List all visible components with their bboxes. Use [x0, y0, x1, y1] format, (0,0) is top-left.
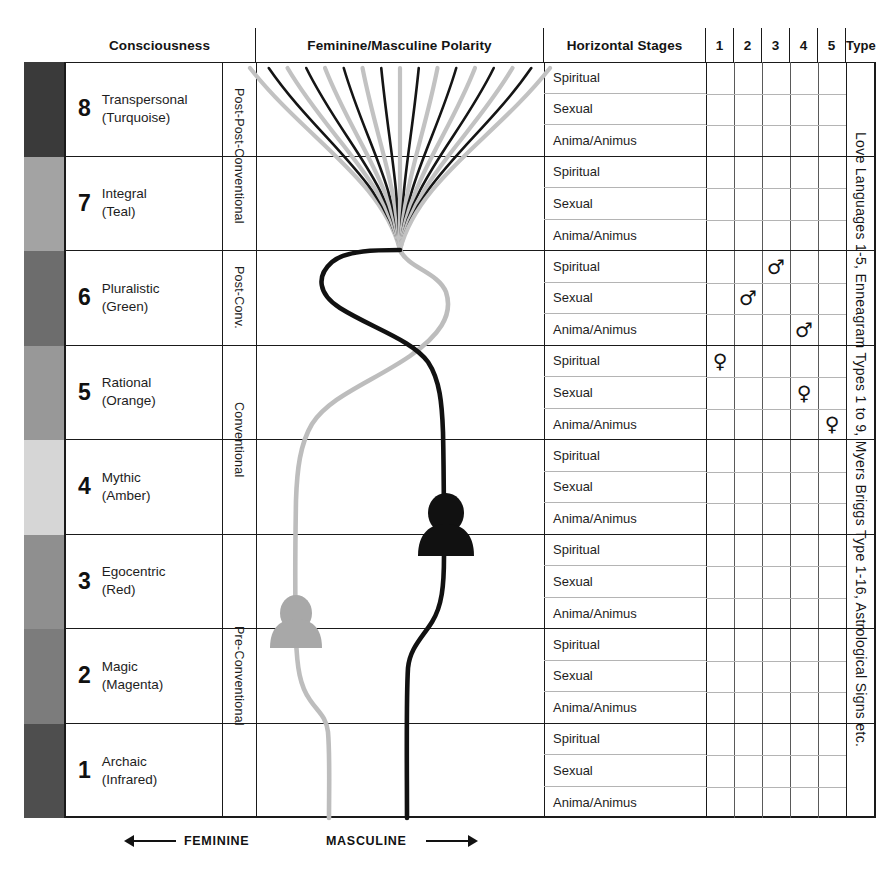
level-name-5: Rational(Orange) [102, 374, 156, 410]
type-column: Love Languages 1-5, Enneagram Types 1 to… [846, 62, 876, 818]
color-swatch-3 [24, 535, 64, 630]
type-column-text: Love Languages 1-5, Enneagram Types 1 to… [853, 132, 869, 747]
stage-subrule [706, 503, 846, 504]
stage-cell-1-sexual: Sexual [544, 755, 706, 787]
level-color-name-3: (Red) [102, 581, 166, 599]
consciousness-cell-2: 2Magic(Magenta) [64, 629, 222, 723]
level-row-4: 4Mythic(Amber) [64, 440, 876, 535]
stage-cell-5-anima-animus: Anima/Animus [544, 409, 706, 441]
level-color-name-1: (Infrared) [102, 771, 158, 789]
tier-label-post-post-conventional: Post-Post-Conventional [222, 62, 256, 251]
consciousness-cell-3: 3Egocentric(Red) [64, 535, 222, 629]
stage-cell-3-spiritual: Spiritual [544, 535, 706, 567]
level-color-name-6: (Green) [102, 298, 160, 316]
polarity-axis-footer: FEMININE MASCULINE [64, 824, 876, 864]
stage-cell-7-sexual: Sexual [544, 188, 706, 220]
color-swatch-5 [24, 346, 64, 441]
level-color-name-5: (Orange) [102, 392, 156, 410]
stage-subrule [706, 283, 846, 284]
masculine-marker-l6-c3: ♂ [762, 251, 790, 283]
stage-subrule [706, 566, 846, 567]
stage-cell-2-spiritual: Spiritual [544, 629, 706, 661]
color-swatch-6 [24, 251, 64, 346]
stage-subrule [706, 598, 846, 599]
level-color-name-2: (Magenta) [102, 676, 164, 694]
stage-cell-3-sexual: Sexual [544, 566, 706, 598]
stage-cell-3-anima-animus: Anima/Animus [544, 598, 706, 630]
level-name-6: Pluralistic(Green) [102, 280, 160, 316]
level-name-1: Archaic(Infrared) [102, 753, 158, 789]
feminine-marker-l5-c1: ♀ [706, 346, 734, 378]
level-row-1: 1Archaic(Infrared) [64, 724, 876, 819]
level-row-8: 8Transpersonal(Turquoise) [64, 62, 876, 157]
level-number-6: 6 [78, 286, 91, 309]
masculine-marker-l6-c4: ♂ [790, 314, 818, 346]
level-number-5: 5 [78, 381, 91, 404]
tier-label-pre-conventional: Pre-Conventional [222, 535, 256, 819]
stage-cell-5-sexual: Sexual [544, 377, 706, 409]
tier-label-post-conv: Post-Conv. [222, 251, 256, 346]
level-number-7: 7 [78, 192, 91, 215]
level-row-5: 5Rational(Orange) [64, 346, 876, 441]
color-swatch-8 [24, 62, 64, 157]
stage-cell-2-sexual: Sexual [544, 661, 706, 693]
feminine-marker-l5-c5: ♀ [818, 409, 846, 441]
header-consciousness: Consciousness [64, 28, 256, 62]
stage-subrule [706, 755, 846, 756]
color-swatch-7 [24, 157, 64, 252]
stage-subrule [706, 94, 846, 95]
feminine-marker-l5-c4: ♀ [790, 377, 818, 409]
stage-cell-5-spiritual: Spiritual [544, 346, 706, 378]
stage-cell-8-anima-animus: Anima/Animus [544, 125, 706, 157]
stage-cell-1-spiritual: Spiritual [544, 724, 706, 756]
level-name-4: Mythic(Amber) [102, 469, 151, 505]
axis-label-feminine: FEMININE [184, 834, 249, 848]
stage-subrule [706, 377, 846, 378]
level-color-name-4: (Amber) [102, 487, 151, 505]
consciousness-cell-5: 5Rational(Orange) [64, 346, 222, 440]
level-name-3: Egocentric(Red) [102, 563, 166, 599]
color-swatch-2 [24, 629, 64, 724]
stage-cell-4-spiritual: Spiritual [544, 440, 706, 472]
axis-label-masculine: MASCULINE [326, 834, 407, 848]
header-number-5: 5 [818, 28, 846, 62]
stage-subrule [706, 125, 846, 126]
header-number-2: 2 [734, 28, 762, 62]
tier-label-text: Post-Conv. [232, 266, 246, 329]
color-swatch-1 [24, 724, 64, 819]
tier-label-text: Conventional [232, 402, 246, 477]
level-color-strip [24, 62, 64, 818]
stage-subrule [706, 787, 846, 788]
consciousness-cell-8: 8Transpersonal(Turquoise) [64, 62, 222, 156]
stage-subrule [706, 188, 846, 189]
stage-subrule [706, 220, 846, 221]
feminine-arrow-icon [124, 835, 134, 847]
level-name-8: Transpersonal(Turquoise) [102, 91, 188, 127]
level-number-2: 2 [78, 664, 91, 687]
stage-cell-8-spiritual: Spiritual [544, 62, 706, 94]
stage-cell-8-sexual: Sexual [544, 94, 706, 126]
tier-label-text: Post-Post-Conventional [232, 88, 246, 224]
masculine-arrow-line [426, 840, 468, 842]
level-name-2: Magic(Magenta) [102, 658, 164, 694]
stage-cell-1-anima-animus: Anima/Animus [544, 787, 706, 819]
masculine-marker-l6-c2: ♂ [734, 283, 762, 315]
stage-cell-2-anima-animus: Anima/Animus [544, 692, 706, 724]
tier-label-conventional: Conventional [222, 346, 256, 535]
consciousness-cell-7: 7Integral(Teal) [64, 157, 222, 251]
stage-subrule [706, 661, 846, 662]
consciousness-cell-4: 4Mythic(Amber) [64, 440, 222, 534]
stage-cell-6-spiritual: Spiritual [544, 251, 706, 283]
level-number-1: 1 [78, 759, 91, 782]
stage-subrule [706, 692, 846, 693]
stage-subrule [706, 314, 846, 315]
stage-cell-6-anima-animus: Anima/Animus [544, 314, 706, 346]
level-row-3: 3Egocentric(Red) [64, 535, 876, 630]
stage-cell-7-anima-animus: Anima/Animus [544, 220, 706, 252]
stage-cell-6-sexual: Sexual [544, 283, 706, 315]
header-number-1: 1 [706, 28, 734, 62]
masculine-arrow-icon [468, 835, 478, 847]
feminine-arrow-line [134, 840, 176, 842]
header-type: Type [846, 28, 876, 62]
level-number-3: 3 [78, 570, 91, 593]
